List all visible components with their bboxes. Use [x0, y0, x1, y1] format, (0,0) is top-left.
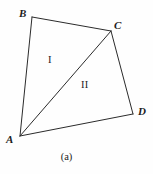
- edge-d-a: [20, 114, 133, 136]
- quadrilateral-diagram: [0, 0, 153, 174]
- vertex-label-a: A: [6, 134, 13, 145]
- edge-c-d: [111, 31, 133, 114]
- vertex-label-d: D: [138, 106, 146, 117]
- vertex-label-c: C: [114, 20, 121, 31]
- vertex-label-b: B: [19, 8, 26, 19]
- figure-container: A B C D I II (a): [0, 0, 153, 174]
- edge-b-c: [32, 17, 111, 31]
- diagonal-a-c: [20, 31, 111, 136]
- region-label-one: I: [48, 55, 52, 66]
- edge-a-b: [20, 17, 32, 136]
- figure-caption: (a): [0, 152, 133, 163]
- region-label-two: II: [81, 80, 88, 91]
